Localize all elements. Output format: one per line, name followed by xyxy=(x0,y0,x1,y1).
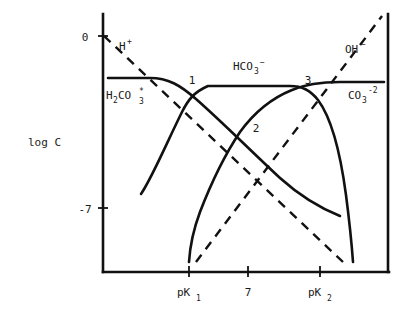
log-c-vs-ph-figure: 0 -7 pK 1 7 pK 2 log C H + OH − H 2 CO 3 xyxy=(0,0,405,319)
h2co3-label: H 2 CO 3 * xyxy=(106,87,144,106)
oh-minus-label-superscript: − xyxy=(361,40,366,49)
hco3-label-text: HCO xyxy=(233,60,253,73)
x-tick-label-pk2-subscript: 2 xyxy=(327,294,332,303)
y-tick-label-0: 0 xyxy=(82,31,89,44)
h-plus-line xyxy=(104,36,343,262)
h2co3-label-h: H xyxy=(106,89,113,102)
speciation-plot: 0 -7 pK 1 7 pK 2 log C H + OH − H 2 CO 3 xyxy=(0,0,405,319)
hco3-label-superscript: − xyxy=(260,58,265,67)
hco3-curve xyxy=(141,86,353,262)
x-tick-label-pk1-text: pK xyxy=(177,286,191,299)
crossing-point-1: 1 xyxy=(189,74,196,87)
hco3-label-subscript: 3 xyxy=(254,67,259,76)
crossing-point-2: 2 xyxy=(253,122,260,135)
x-tick-label-pk2: pK 2 xyxy=(308,286,332,303)
co3-label: CO 3 -2 xyxy=(348,86,378,105)
hco3-label: HCO 3 − xyxy=(233,58,265,76)
co3-label-text: CO xyxy=(348,89,361,102)
oh-minus-label: OH − xyxy=(345,40,366,56)
x-tick-label-pk2-text: pK xyxy=(308,286,322,299)
crossing-point-3: 3 xyxy=(305,74,312,87)
h-plus-label: H + xyxy=(119,37,132,53)
h-plus-label-text: H xyxy=(119,40,126,53)
oh-minus-label-text: OH xyxy=(345,43,358,56)
h2co3-label-sub3: 3 xyxy=(139,97,144,106)
x-tick-label-pk1: pK 1 xyxy=(177,286,201,303)
h2co3-label-star: * xyxy=(139,87,144,96)
y-tick-label-minus7: -7 xyxy=(78,203,91,216)
co3-label-subscript: 3 xyxy=(362,96,367,105)
co3-label-superscript: -2 xyxy=(368,86,378,95)
h2co3-label-co: CO xyxy=(118,89,131,102)
h-plus-label-superscript: + xyxy=(127,37,132,46)
y-axis-title: log C xyxy=(28,136,61,149)
x-tick-label-pk1-subscript: 1 xyxy=(196,294,201,303)
co3-curve xyxy=(189,82,384,262)
x-tick-label-7: 7 xyxy=(245,286,252,299)
